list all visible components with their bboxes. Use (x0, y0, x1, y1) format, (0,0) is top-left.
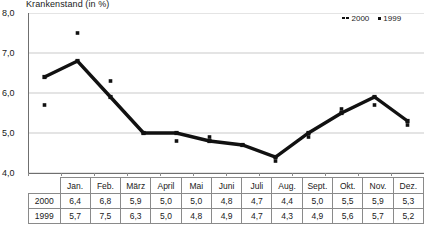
data-point-1999 (340, 107, 344, 111)
table-cell: 4,8 (181, 209, 211, 224)
table-col-header: Nov. (363, 178, 393, 194)
table-cell: 5,0 (181, 194, 211, 209)
table-col-header: Okt. (333, 178, 363, 194)
data-point-2000 (108, 95, 112, 99)
data-point-1999 (175, 139, 179, 143)
table-col-header: Sept. (302, 178, 332, 194)
table-col-header: Aug. (272, 178, 302, 194)
data-point-2000 (207, 139, 211, 143)
data-point-1999 (208, 135, 212, 139)
table-cell: 5,2 (393, 209, 423, 224)
table-cell: 5,9 (363, 194, 393, 209)
gridlines (28, 13, 424, 173)
table-cell: 4,4 (272, 194, 302, 209)
y-axis-tick-5: 5,0 (2, 128, 24, 138)
table-col-header: Mai (181, 178, 211, 194)
table-col-header: Juni (211, 178, 241, 194)
data-point-1999 (274, 159, 278, 163)
table-row-header: 2000 (29, 194, 61, 209)
table-cell: 4,3 (272, 209, 302, 224)
table-row: 20006,46,85,95,05,04,84,74,45,05,55,95,3 (29, 194, 424, 209)
table-cell: 4,7 (242, 209, 272, 224)
data-point-1999 (406, 123, 410, 127)
data-point-2000 (42, 75, 46, 79)
table-cell: 5,9 (121, 194, 151, 209)
table-body: 20006,46,85,95,05,04,84,74,45,05,55,95,3… (29, 194, 424, 224)
table-col-header: Dez. (393, 178, 423, 194)
table-col-header: Jan. (60, 178, 90, 194)
chart-screenshot: Krankenstand (in %) 2000 1999 8,0 7,0 6,… (0, 0, 431, 230)
y-axis-tick-8: 8,0 (2, 8, 24, 18)
data-line-2000 (45, 61, 408, 157)
table-cell: 5,7 (363, 209, 393, 224)
data-point-2000 (372, 95, 376, 99)
table-col-header: April (151, 178, 181, 194)
data-point-2000 (141, 131, 145, 135)
data-point-2000 (306, 131, 310, 135)
table-cell: 5,6 (333, 209, 363, 224)
y-axis-tick-7: 7,0 (2, 48, 24, 58)
table-col-header: März (121, 178, 151, 194)
table-header-row: Jan.Feb.MärzAprilMaiJuniJuliAug.Sept.Okt… (29, 178, 424, 194)
chart-plot-svg (28, 13, 424, 176)
data-point-1999 (76, 31, 80, 35)
table-cell: 5,3 (393, 194, 423, 209)
y-axis-tick-6: 6,0 (2, 88, 24, 98)
data-point-1999 (109, 79, 113, 83)
table-cell: 4,8 (211, 194, 241, 209)
table-cell: 5,5 (333, 194, 363, 209)
data-point-1999 (373, 103, 377, 107)
page-title: Krankenstand (in %) (26, 0, 109, 9)
data-point-2000 (240, 143, 244, 147)
table-cell: 5,0 (302, 194, 332, 209)
plot-area (28, 13, 424, 176)
table-corner-cell (29, 178, 61, 194)
data-point-1999 (43, 103, 47, 107)
table-cell: 5,7 (60, 209, 90, 224)
table-col-header: Juli (242, 178, 272, 194)
data-point-2000 (405, 119, 409, 123)
table-cell: 4,7 (242, 194, 272, 209)
y-axis-tick-4: 4,0 (2, 168, 24, 178)
table-cell: 7,5 (90, 209, 120, 224)
table-cell: 5,0 (151, 209, 181, 224)
table-cell: 5,0 (151, 194, 181, 209)
data-point-2000 (75, 59, 79, 63)
table-cell: 6,3 (121, 209, 151, 224)
data-table: Jan.Feb.MärzAprilMaiJuniJuliAug.Sept.Okt… (28, 177, 424, 224)
table-row: 19995,77,56,35,04,84,94,74,34,95,65,75,2 (29, 209, 424, 224)
table-row-header: 1999 (29, 209, 61, 224)
table-cell: 6,8 (90, 194, 120, 209)
data-point-2000 (174, 131, 178, 135)
table-cell: 6,4 (60, 194, 90, 209)
table-cell: 4,9 (302, 209, 332, 224)
table-col-header: Feb. (90, 178, 120, 194)
data-point-2000 (273, 155, 277, 159)
table-cell: 4,9 (211, 209, 241, 224)
series-2000-line (45, 61, 408, 157)
data-point-2000 (339, 111, 343, 115)
